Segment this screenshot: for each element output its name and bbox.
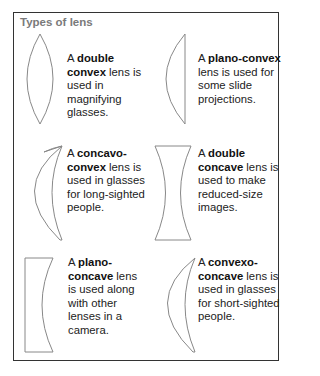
concavo-convex-description: A concavo-convex lens is used in glasses…: [67, 147, 151, 215]
panel-title: Types of lens: [20, 16, 93, 28]
convexo-concave-lens-icon: [155, 256, 199, 354]
double-concave-description: A double concave lens is used to make re…: [198, 147, 282, 215]
double-convex-description: A double convex lens is used in magnifyi…: [67, 52, 151, 120]
double-convex-lens-icon: [20, 32, 60, 126]
plano-convex-description: A plano-convex lens is used for some sli…: [198, 52, 282, 106]
convexo-concave-description: A convexo-concave lens is used in glasse…: [198, 256, 282, 324]
plano-convex-lens-icon: [155, 32, 189, 126]
concavo-convex-lens-icon: [22, 144, 66, 242]
double-concave-lens-icon: [152, 144, 194, 242]
plano-concave-description: A plano-concave lens is used along with …: [68, 256, 148, 337]
plano-concave-lens-icon: [23, 256, 57, 354]
